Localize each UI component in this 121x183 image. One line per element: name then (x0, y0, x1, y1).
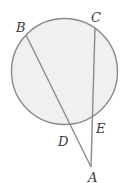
label-point-b: B (15, 20, 26, 35)
geometry-diagram: B C D E A (0, 0, 121, 183)
label-point-e: E (95, 121, 106, 136)
label-point-c: C (91, 10, 101, 25)
circle (12, 19, 118, 125)
label-point-d: D (57, 134, 69, 149)
label-point-a: A (87, 170, 97, 183)
